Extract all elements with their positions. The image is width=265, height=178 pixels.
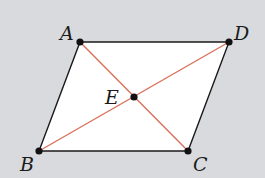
- label-d: D: [233, 22, 249, 44]
- point-b: [35, 147, 42, 154]
- point-e: [130, 93, 137, 100]
- point-a: [76, 38, 83, 45]
- label-e: E: [104, 86, 119, 108]
- point-d: [225, 38, 232, 45]
- label-b: B: [19, 153, 34, 175]
- diagram-canvas: A D B C E: [0, 0, 265, 178]
- label-a: A: [58, 22, 74, 44]
- label-c: C: [193, 153, 208, 175]
- parallelogram-diagram: A D B C E: [0, 0, 265, 178]
- point-c: [184, 147, 191, 154]
